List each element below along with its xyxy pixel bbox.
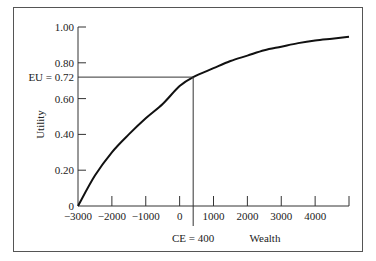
x-tick-label: 4000 bbox=[304, 210, 327, 222]
x-tick-label: 2000 bbox=[236, 210, 259, 222]
y-tick-label: 0.60 bbox=[55, 93, 75, 105]
x-tick-label: −2000 bbox=[98, 210, 127, 222]
y-axis-title: Utility bbox=[34, 110, 46, 139]
x-axis-title: Wealth bbox=[250, 232, 281, 244]
y-tick-label: 0.20 bbox=[55, 164, 75, 176]
utility-chart: 00.200.400.600.801.00−3000−2000−10000100… bbox=[0, 0, 376, 261]
x-tick-label: 3000 bbox=[270, 210, 293, 222]
x-tick-label: 0 bbox=[177, 210, 183, 222]
y-tick-label: 0.40 bbox=[55, 128, 75, 140]
y-tick-label: 1.00 bbox=[55, 21, 75, 33]
x-tick-label: −3000 bbox=[64, 210, 93, 222]
y-tick-label: 0.80 bbox=[55, 57, 75, 69]
x-tick-label: 1000 bbox=[203, 210, 226, 222]
x-tick-label: −1000 bbox=[132, 210, 161, 222]
eu-annotation: EU = 0.72 bbox=[28, 71, 74, 83]
ce-annotation: CE = 400 bbox=[172, 232, 215, 244]
utility-curve bbox=[78, 37, 349, 206]
